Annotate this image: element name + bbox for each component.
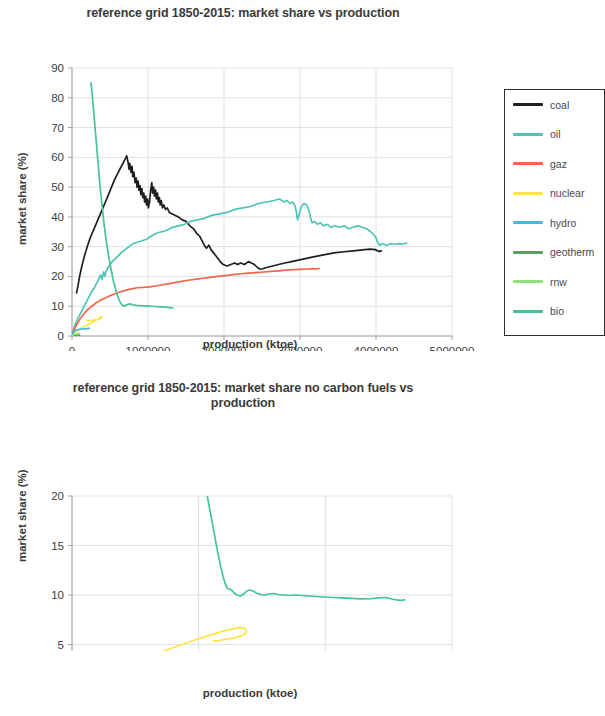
y-tick-label: 40 [51, 211, 64, 223]
legend-label: oil [550, 128, 561, 140]
y-tick-label: 15 [51, 540, 64, 552]
chart-title-top: reference grid 1850-2015: market share v… [8, 0, 478, 21]
legend-label: geotherm [550, 246, 594, 258]
legend-swatch-hydro-icon [513, 221, 543, 224]
legend-item-oil[interactable]: oil [505, 120, 604, 150]
legend-item-hydro[interactable]: hydro [505, 208, 604, 238]
x-axis-title-bottom: production (ktoe) [40, 687, 460, 699]
legend-label: gaz [550, 158, 567, 170]
y-tick-label: 70 [51, 122, 64, 134]
legend-swatch-nuclear-icon [513, 192, 543, 195]
series-line-nuclear [75, 628, 247, 651]
legend-item-rnw[interactable]: rnw [505, 267, 604, 297]
legend-label: rnw [550, 276, 567, 288]
plot-area-bottom: 05101520050000010000001500000 [0, 411, 605, 651]
plot-svg-bottom: 05101520050000010000001500000 [0, 411, 605, 651]
legend-label: nuclear [550, 187, 584, 199]
legend-swatch-coal-icon [513, 103, 543, 106]
legend-top: coaloilgaznuclearhydrogeothermrnwbio [504, 89, 605, 336]
legend-item-coal[interactable]: coal [505, 90, 604, 120]
series-line-bio [207, 496, 404, 600]
series-line-gaz [73, 268, 319, 333]
chart-market-share-vs-production: reference grid 1850-2015: market share v… [0, 0, 605, 372]
y-tick-label: 20 [51, 270, 64, 282]
legend-item-nuclear[interactable]: nuclear [505, 179, 604, 209]
y-tick-label: 10 [51, 589, 64, 601]
series-line-coal [77, 156, 382, 293]
y-tick-label: 20 [51, 490, 64, 502]
chart-title-bottom: reference grid 1850-2015: market share n… [8, 372, 478, 411]
legend-item-geotherm[interactable]: geotherm [505, 238, 604, 268]
y-tick-label: 50 [51, 181, 64, 193]
legend-label: coal [550, 99, 569, 111]
y-axis-title-bottom: market share (%) [16, 469, 28, 562]
y-axis-title-top: market share (%) [16, 152, 28, 245]
series-line-oil [73, 199, 406, 332]
y-tick-label: 30 [51, 241, 64, 253]
y-tick-label: 90 [51, 62, 64, 74]
chart-no-carbon-fuels-vs-production: reference grid 1850-2015: market share n… [0, 372, 605, 716]
legend-item-gaz[interactable]: gaz [505, 149, 604, 179]
legend-swatch-bio-icon [513, 310, 543, 313]
legend-label: hydro [550, 217, 576, 229]
legend-item-bio[interactable]: bio [505, 297, 604, 327]
legend-label: bio [550, 305, 564, 317]
legend-swatch-rnw-icon [513, 280, 543, 283]
y-tick-label: 60 [51, 151, 64, 163]
legend-swatch-oil-icon [513, 133, 543, 136]
chart-title-bottom-line2: production [8, 396, 478, 411]
y-tick-label: 10 [51, 300, 64, 312]
y-tick-label: 5 [58, 639, 64, 651]
legend-swatch-geotherm-icon [513, 251, 543, 254]
chart-title-bottom-line1: reference grid 1850-2015: market share n… [8, 381, 478, 396]
x-axis-title-top: production (ktoe) [40, 338, 460, 350]
y-tick-label: 80 [51, 92, 64, 104]
legend-swatch-gaz-icon [513, 162, 543, 165]
